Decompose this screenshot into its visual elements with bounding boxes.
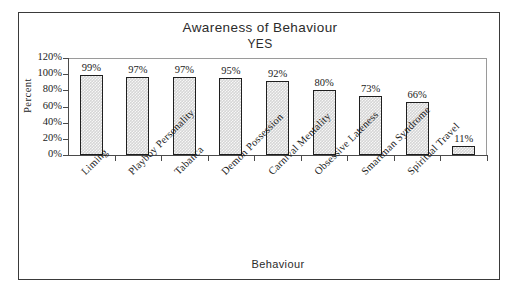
x-axis-tick <box>161 156 162 161</box>
x-axis-tick <box>115 156 116 161</box>
x-axis-tick <box>301 156 302 161</box>
x-axis-tick <box>254 156 255 161</box>
bar-value-label: 97% <box>159 64 209 75</box>
bar-value-label: 92% <box>253 68 303 79</box>
bar-value-label: 66% <box>392 89 442 100</box>
y-axis-tick-labels: 120%100%80%60%40%20%0% <box>14 0 62 298</box>
bar <box>80 75 103 155</box>
y-axis-tick <box>63 123 68 124</box>
bar <box>219 78 242 155</box>
x-axis-tick <box>487 156 488 161</box>
y-axis-tick <box>63 90 68 91</box>
y-axis-tick <box>63 58 68 59</box>
x-axis-tick <box>347 156 348 161</box>
x-axis-tick <box>394 156 395 161</box>
y-axis-tick <box>63 74 68 75</box>
y-axis-title: Percent <box>22 56 33 136</box>
bar-value-label: 95% <box>206 65 256 76</box>
x-axis-tick <box>440 156 441 161</box>
bar-value-label: 97% <box>113 64 163 75</box>
chart-figure: Awareness of Behaviour YES 120%100%80%60… <box>0 0 518 298</box>
y-axis-tick <box>63 155 68 156</box>
y-axis-tick <box>63 139 68 140</box>
bar <box>452 146 475 155</box>
bar-value-label: 80% <box>299 77 349 88</box>
bar-value-label: 99% <box>66 62 116 73</box>
x-axis-title: Behaviour <box>68 258 488 270</box>
y-axis-tick-label: 0% <box>18 149 62 159</box>
chart-title: Awareness of Behaviour <box>60 20 460 35</box>
bar <box>126 77 149 155</box>
y-axis-tick <box>63 107 68 108</box>
bar-value-label: 73% <box>346 83 396 94</box>
chart-subtitle: YES <box>60 37 460 51</box>
x-axis-tick <box>208 156 209 161</box>
